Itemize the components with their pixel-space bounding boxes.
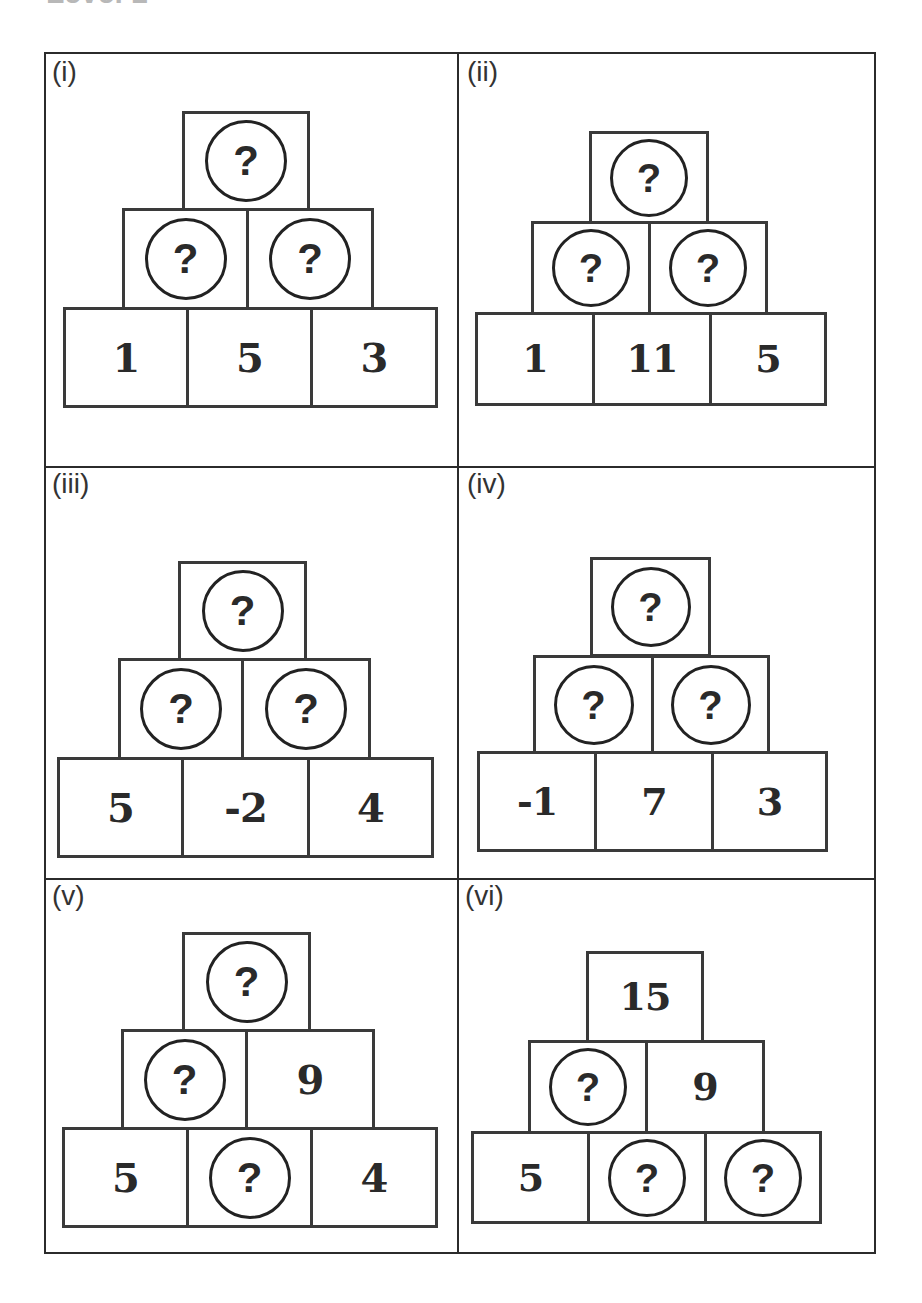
pyramid-bottom-cell-middle: 11 (592, 312, 712, 406)
pyramid-bottom-cell-right: 4 (307, 757, 434, 858)
cell-value: 5 (755, 340, 780, 378)
pyramid-middle-cell-left: ? (528, 1040, 648, 1134)
question-circle-icon: ? (145, 218, 227, 300)
pyramid-top-cell: 15 (586, 951, 704, 1043)
cell-value: 3 (361, 338, 388, 378)
panel-label: (v) (52, 882, 85, 910)
question-circle-icon: ? (206, 941, 288, 1023)
pyramid-bottom-cell-right: 4 (310, 1127, 438, 1228)
cell-value: 9 (692, 1068, 717, 1106)
pyramid-middle-cell-right: ? (241, 658, 371, 760)
cell-value: 5 (107, 788, 134, 828)
panel-label: (vi) (465, 882, 504, 910)
pyramid-bottom-cell-middle: -2 (181, 757, 310, 858)
pyramid-bottom-cell-left: 1 (475, 312, 595, 406)
question-circle-icon: ? (669, 229, 747, 307)
page-title-cropped: Level 1 (46, 0, 148, 8)
pyramid-bottom-cell-middle: ? (186, 1127, 313, 1228)
pyramid-middle-cell-right: ? (246, 208, 374, 310)
pyramid-top-cell: ? (590, 557, 711, 657)
pyramid-bottom-cell-right: 3 (711, 751, 828, 852)
cell-value: 5 (112, 1158, 139, 1198)
question-circle-icon: ? (549, 1048, 627, 1126)
pyramid-middle-cell-right: 9 (645, 1040, 765, 1134)
question-circle-icon: ? (269, 218, 351, 300)
cell-value: 4 (361, 1158, 388, 1198)
column-divider (457, 52, 459, 1254)
cell-value: -1 (517, 783, 557, 821)
pyramid-middle-cell-left: ? (118, 658, 244, 760)
cell-value: 4 (357, 788, 384, 828)
pyramid-top-cell: ? (182, 111, 310, 211)
pyramid-middle-cell-right: ? (648, 221, 768, 315)
cell-value: 3 (757, 783, 782, 821)
question-circle-icon: ? (724, 1139, 802, 1217)
pyramid-bottom-cell-right: 5 (709, 312, 827, 406)
pyramid-middle-cell-left: ? (531, 221, 651, 315)
question-circle-icon: ? (671, 665, 751, 745)
pyramid-top-cell: ? (589, 131, 709, 224)
panel-label: (iii) (52, 470, 89, 498)
pyramid-bottom-cell-left: 5 (62, 1127, 189, 1228)
cell-value: 7 (641, 783, 666, 821)
pyramid-middle-cell-left: ? (121, 1029, 248, 1130)
pyramid-bottom-cell-right: 3 (310, 307, 438, 408)
pyramid-middle-cell-right: ? (651, 655, 770, 754)
cell-value: 9 (297, 1060, 324, 1100)
cell-value: -2 (224, 788, 266, 828)
cell-value: 11 (627, 340, 678, 378)
pyramid-middle-cell-right: 9 (245, 1029, 375, 1130)
question-circle-icon: ? (265, 668, 347, 750)
question-circle-icon: ? (205, 120, 287, 202)
cell-value: 1 (522, 340, 547, 378)
pyramid-bottom-cell-left: 5 (57, 757, 184, 858)
question-circle-icon: ? (202, 570, 284, 652)
panel-label: (i) (52, 58, 77, 86)
question-circle-icon: ? (608, 1139, 686, 1217)
question-circle-icon: ? (552, 229, 630, 307)
cell-value: 5 (236, 338, 263, 378)
question-circle-icon: ? (209, 1137, 291, 1219)
pyramid-bottom-cell-left: 1 (63, 307, 189, 408)
cell-value: 1 (113, 338, 140, 378)
panel-label: (iv) (467, 470, 506, 498)
pyramid-bottom-cell-left: -1 (477, 751, 597, 852)
question-circle-icon: ? (144, 1039, 226, 1121)
question-circle-icon: ? (610, 139, 688, 217)
pyramid-top-cell: ? (182, 932, 311, 1032)
row-divider-2 (44, 878, 876, 880)
pyramid-bottom-cell-middle: ? (587, 1131, 707, 1224)
pyramid-bottom-cell-left: 5 (471, 1131, 590, 1224)
row-divider-1 (44, 466, 876, 468)
pyramid-bottom-cell-right: ? (704, 1131, 822, 1224)
pyramid-middle-cell-left: ? (533, 655, 654, 754)
question-circle-icon: ? (140, 668, 222, 750)
cell-value: 5 (518, 1159, 543, 1197)
pyramid-middle-cell-left: ? (122, 208, 249, 310)
pyramid-bottom-cell-middle: 5 (186, 307, 313, 408)
pyramid-top-cell: ? (178, 561, 307, 661)
pyramid-bottom-cell-middle: 7 (594, 751, 714, 852)
question-circle-icon: ? (554, 665, 634, 745)
panel-label: (ii) (467, 58, 498, 86)
question-circle-icon: ? (611, 567, 691, 647)
cell-value: 15 (620, 978, 671, 1016)
